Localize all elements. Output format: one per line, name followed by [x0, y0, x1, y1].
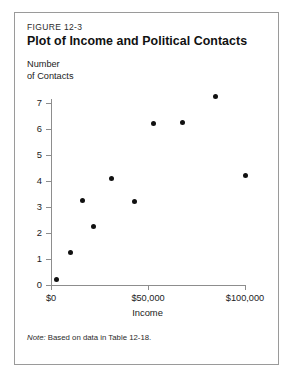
- x-tick-label: $0: [46, 293, 56, 303]
- y-tick-mark: [46, 233, 51, 234]
- x-tick-mark: [148, 285, 149, 290]
- y-tick-label: 4: [22, 175, 42, 186]
- y-tick-mark: [46, 129, 51, 130]
- y-tick-mark: [46, 259, 51, 260]
- data-point: [151, 121, 156, 126]
- y-axis-line: [51, 99, 52, 286]
- scatter-plot: 01234567 $0$50,000$100,000 Income: [15, 13, 280, 366]
- x-tick-label: $100,000: [226, 293, 264, 303]
- figure-note-lead: Note:: [27, 333, 46, 342]
- y-tick-mark: [46, 103, 51, 104]
- x-tick-mark: [245, 285, 246, 290]
- data-point: [243, 173, 248, 178]
- y-tick-mark: [46, 207, 51, 208]
- y-tick-label: 7: [22, 97, 42, 108]
- y-tick-mark: [46, 181, 51, 182]
- data-point: [68, 250, 73, 255]
- data-point: [180, 120, 185, 125]
- x-tick-label: $50,000: [131, 293, 164, 303]
- data-point: [213, 94, 218, 99]
- y-tick-label: 1: [22, 253, 42, 264]
- figure-note-text: Based on data in Table 12-18.: [48, 333, 151, 342]
- y-tick-label: 2: [22, 227, 42, 238]
- x-tick-mark: [51, 285, 52, 290]
- y-tick-label: 0: [22, 279, 42, 290]
- y-tick-label: 3: [22, 201, 42, 212]
- figure-note: Note: Based on data in Table 12-18.: [27, 333, 151, 342]
- data-point: [80, 198, 85, 203]
- data-point: [132, 199, 137, 204]
- y-tick-label: 6: [22, 123, 42, 134]
- data-point: [91, 224, 96, 229]
- data-point: [54, 277, 59, 282]
- figure-container: FIGURE 12-3 Plot of Income and Political…: [14, 12, 279, 365]
- y-tick-mark: [46, 155, 51, 156]
- x-axis-label: Income: [15, 307, 280, 318]
- y-tick-label: 5: [22, 149, 42, 160]
- data-point: [109, 176, 114, 181]
